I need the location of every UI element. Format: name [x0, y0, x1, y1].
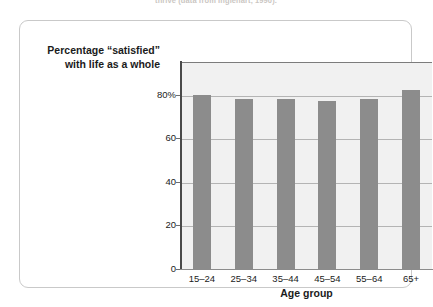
top-caption-text: thrive (data from Inglehart, 1990). — [0, 0, 432, 5]
x-axis-ticks: 15–2425–3435–4445–5455–6465+ — [181, 273, 432, 286]
bar-45–54 — [318, 101, 336, 269]
x-tick-label-65+: 65+ — [389, 273, 433, 284]
y-axis-caption-line-1: Percentage “satisfied” — [24, 44, 160, 58]
x-tick-label-25–34: 25–34 — [222, 273, 266, 284]
y-tick-mark-80 — [176, 95, 180, 96]
y-axis-ticks: 020406080% — [138, 62, 176, 269]
bar-55–64 — [360, 99, 378, 269]
y-tick-label-0: 0 — [142, 264, 176, 274]
bar-25–34 — [235, 99, 253, 269]
bar-35–44 — [277, 99, 295, 269]
x-tick-label-35–44: 35–44 — [264, 273, 308, 284]
y-tick-mark-0 — [176, 269, 180, 270]
y-tick-label-60: 60 — [142, 133, 176, 143]
y-tick-mark-40 — [176, 182, 180, 183]
bar-series — [181, 62, 432, 269]
bar-65+ — [402, 90, 420, 269]
y-tick-mark-20 — [176, 225, 180, 226]
x-tick-label-55–64: 55–64 — [347, 273, 391, 284]
figure-card: Percentage “satisfied” with life as a wh… — [19, 20, 412, 288]
y-tick-label-20: 20 — [142, 220, 176, 230]
bar-15–24 — [193, 95, 211, 269]
x-tick-label-45–54: 45–54 — [305, 273, 349, 284]
x-tick-label-15–24: 15–24 — [180, 273, 224, 284]
y-tick-mark-60 — [176, 138, 180, 139]
y-tick-label-80: 80% — [142, 90, 176, 100]
x-axis-title: Age group — [181, 287, 432, 299]
y-tick-label-40: 40 — [142, 177, 176, 187]
